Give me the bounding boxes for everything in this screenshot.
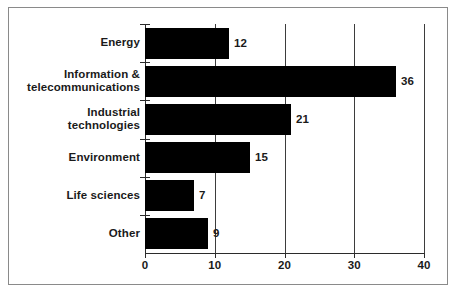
bar-value-label: 15 [255, 142, 268, 173]
bar [145, 180, 194, 211]
category-label: Information &telecommunications [8, 68, 140, 95]
category-axis-labels: EnergyInformation &telecommunicationsInd… [0, 0, 140, 301]
category-label-line: Industrial [8, 106, 140, 120]
category-label-line: Life sciences [8, 189, 140, 203]
category-label: Energy [8, 36, 140, 50]
bar-value-label: 7 [199, 180, 206, 211]
x-tick-label-20: 20 [265, 259, 305, 271]
bar [145, 218, 208, 249]
bar [145, 104, 291, 135]
bar [145, 142, 250, 173]
category-label-line: technologies [8, 119, 140, 133]
x-tick-label-30: 30 [334, 259, 374, 271]
y-tick-5 [140, 215, 150, 216]
category-label: Other [8, 227, 140, 241]
category-label-line: Information & [8, 68, 140, 82]
bar [145, 66, 396, 97]
bar-value-label: 9 [213, 218, 220, 249]
y-tick-3 [140, 139, 150, 140]
category-label-line: telecommunications [8, 81, 140, 95]
category-label: Industrialtechnologies [8, 106, 140, 133]
x-tick-20 [285, 253, 286, 258]
x-tick-40 [424, 253, 425, 258]
category-label: Life sciences [8, 189, 140, 203]
category-label-line: Other [8, 227, 140, 241]
gridline-40 [424, 24, 425, 253]
x-tick-10 [215, 253, 216, 258]
y-axis-top-cap [140, 24, 150, 25]
bar-value-label: 36 [401, 66, 414, 97]
bar [145, 28, 229, 59]
x-tick-label-10: 10 [195, 259, 235, 271]
bar-value-label: 21 [296, 104, 309, 135]
bar-value-label: 12 [234, 28, 247, 59]
y-tick-4 [140, 177, 150, 178]
category-label-line: Environment [8, 151, 140, 165]
x-tick-0 [145, 253, 146, 258]
x-tick-30 [354, 253, 355, 258]
gridline-20 [285, 24, 286, 253]
x-tick-label-40: 40 [404, 259, 444, 271]
category-label: Environment [8, 151, 140, 165]
gridline-30 [354, 24, 355, 253]
bar-chart: 010203040 1236211579 EnergyInformation &… [0, 0, 457, 301]
category-label-line: Energy [8, 36, 140, 50]
y-tick-1 [140, 62, 150, 63]
y-tick-2 [140, 100, 150, 101]
